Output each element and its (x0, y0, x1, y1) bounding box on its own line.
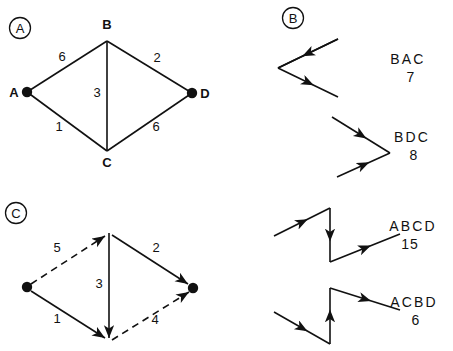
path-glyph-acbd (274, 288, 400, 344)
path-glyph-abcd (274, 208, 400, 262)
panel-d: ABCD 15 ACBD 6 (274, 208, 438, 344)
path-label-bac: BAC (390, 51, 425, 67)
panel-b-letter: B (289, 11, 298, 26)
path-bac-stroke-2 (278, 68, 338, 97)
path-acbd-stroke-1 (274, 312, 330, 344)
panel-a: A A B C D 6 2 3 1 6 (9, 17, 210, 170)
edge-c-b-d (112, 235, 188, 284)
edge-weight-c-bd: 2 (152, 240, 159, 255)
path-bdc-stroke-1 (332, 117, 390, 153)
edge-weight-bc: 3 (93, 85, 100, 100)
path-label-acbd: ACBD (390, 294, 438, 310)
node-c-d (188, 283, 198, 293)
figure-canvas: A A B C D 6 2 3 1 6 B BAC 7 (0, 0, 453, 351)
node-c-a (22, 282, 32, 292)
panel-a-letter: A (16, 21, 25, 36)
node-d (187, 88, 197, 98)
path-glyph-bdc (332, 117, 390, 177)
panel-c-letter: C (11, 206, 20, 221)
edge-a-c (27, 92, 107, 151)
path-cost-abcd: 15 (401, 236, 419, 252)
edge-weight-c-ac: 1 (53, 311, 60, 326)
edge-weight-cd: 6 (152, 119, 159, 134)
edge-c-a-b (31, 236, 105, 284)
edge-c-a-c (31, 291, 105, 338)
path-bdc-stroke-2 (337, 153, 390, 177)
edge-weight-c-bc: 3 (95, 276, 102, 291)
edge-weight-c-ab: 5 (53, 240, 60, 255)
path-glyph-bac (278, 39, 338, 97)
edge-b-d (107, 41, 192, 93)
path-cost-bdc: 8 (410, 147, 419, 163)
edge-weight-ac: 1 (55, 119, 62, 134)
node-label-c: C (102, 155, 112, 170)
edge-weight-ab: 6 (58, 49, 65, 64)
path-bac-stroke-1 (278, 39, 338, 68)
path-abcd-stroke-3 (330, 234, 400, 262)
panel-c: C 5 2 3 1 4 (6, 203, 199, 341)
path-cost-acbd: 6 (412, 312, 421, 328)
node-label-d: D (200, 86, 210, 101)
graph-figure-svg: A A B C D 6 2 3 1 6 B BAC 7 (0, 0, 453, 351)
path-abcd-stroke-1 (274, 208, 330, 236)
panel-b: B BAC 7 BDC 8 (278, 8, 430, 178)
path-label-abcd: ABCD (389, 218, 437, 234)
edge-c-d (107, 93, 192, 151)
path-cost-bac: 7 (407, 69, 416, 85)
path-label-bdc: BDC (394, 129, 430, 145)
edge-weight-bd: 2 (153, 50, 160, 65)
node-label-b: B (102, 17, 112, 32)
edge-weight-c-cd: 4 (151, 312, 158, 327)
node-label-a: A (9, 85, 19, 100)
node-a (22, 87, 32, 97)
